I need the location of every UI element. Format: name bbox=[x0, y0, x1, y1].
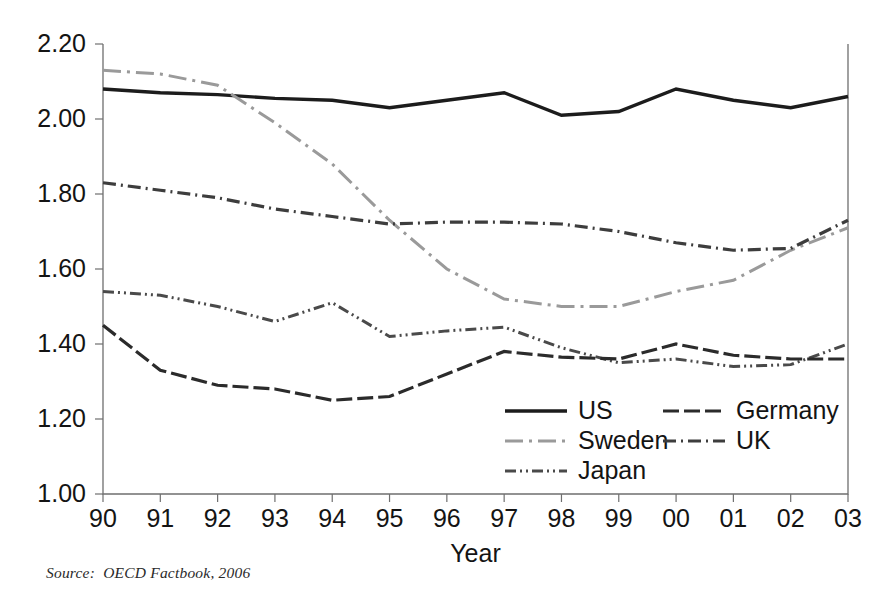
chart-legend: USGermanySwedenUKJapan bbox=[505, 396, 839, 484]
legend-item-uk[interactable]: UK bbox=[663, 426, 771, 454]
legend-item-germany[interactable]: Germany bbox=[663, 396, 839, 424]
legend-item-japan[interactable]: Japan bbox=[505, 456, 646, 484]
y-tick-label: 1.40 bbox=[37, 329, 86, 357]
x-tick-label: 01 bbox=[719, 504, 747, 532]
legend-label-us: US bbox=[578, 396, 613, 424]
y-tick-label: 2.00 bbox=[37, 104, 86, 132]
series-line-us bbox=[103, 89, 848, 115]
series-line-germany bbox=[103, 325, 848, 400]
x-tick-label: 92 bbox=[204, 504, 232, 532]
x-tick-label: 95 bbox=[376, 504, 404, 532]
legend-label-japan: Japan bbox=[578, 456, 646, 484]
x-tick-label: 96 bbox=[433, 504, 461, 532]
x-axis-ticks: 9091929394959697989900010203 bbox=[89, 494, 862, 532]
y-tick-label: 1.00 bbox=[37, 479, 86, 507]
x-tick-label: 00 bbox=[662, 504, 690, 532]
x-tick-label: 93 bbox=[261, 504, 289, 532]
y-tick-label: 1.20 bbox=[37, 404, 86, 432]
legend-item-sweden[interactable]: Sweden bbox=[505, 426, 668, 454]
y-tick-label: 1.60 bbox=[37, 254, 86, 282]
series-line-uk bbox=[103, 183, 848, 251]
source-note: Source: OECD Factbook, 2006 bbox=[46, 564, 250, 582]
chart-figure: 1.001.201.401.601.802.002.20 90919293949… bbox=[0, 0, 892, 613]
x-tick-label: 99 bbox=[605, 504, 633, 532]
x-tick-label: 03 bbox=[834, 504, 862, 532]
legend-label-sweden: Sweden bbox=[578, 426, 668, 454]
y-axis-ticks: 1.001.201.401.601.802.002.20 bbox=[37, 29, 103, 507]
line-chart: 1.001.201.401.601.802.002.20 90919293949… bbox=[0, 0, 892, 613]
y-tick-label: 2.20 bbox=[37, 29, 86, 57]
series-lines bbox=[103, 70, 848, 400]
x-tick-label: 90 bbox=[89, 504, 117, 532]
x-tick-label: 98 bbox=[548, 504, 576, 532]
legend-item-us[interactable]: US bbox=[505, 396, 613, 424]
x-axis-title: Year bbox=[450, 539, 501, 567]
x-tick-label: 02 bbox=[777, 504, 805, 532]
legend-label-germany: Germany bbox=[736, 396, 839, 424]
x-tick-label: 97 bbox=[490, 504, 518, 532]
series-line-sweden bbox=[103, 70, 848, 306]
y-tick-label: 1.80 bbox=[37, 179, 86, 207]
legend-label-uk: UK bbox=[736, 426, 771, 454]
x-tick-label: 91 bbox=[146, 504, 174, 532]
x-tick-label: 94 bbox=[318, 504, 346, 532]
